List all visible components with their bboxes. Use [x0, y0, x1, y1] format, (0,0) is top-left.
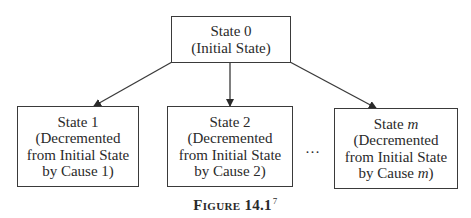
arrow-state0-to-state1 [94, 62, 172, 106]
state-0-title: State 0 [172, 23, 290, 40]
state-m-line3: by Cause m) [335, 165, 457, 182]
state-0-box: State 0 (Initial State) [171, 16, 291, 63]
state-2-line1: (Decremented [168, 130, 292, 147]
state-1-line2: from Initial State [18, 147, 138, 164]
state-0-subtitle: (Initial State) [172, 40, 290, 57]
state-1-title: State 1 [18, 114, 138, 131]
arrow-state0-to-statem [290, 62, 376, 108]
state-1-box: State 1 (Decremented from Initial State … [17, 106, 139, 187]
state-m-title-prefix: State [374, 116, 408, 132]
ellipsis: … [305, 140, 320, 157]
state-1-line1: (Decremented [18, 130, 138, 147]
state-m-line3-prefix: by Cause [358, 165, 417, 181]
state-m-line3-suffix: ) [429, 165, 434, 181]
state-2-title: State 2 [168, 114, 292, 131]
state-m-box: State m (Decremented from Initial State … [334, 108, 458, 189]
state-m-line1: (Decremented [335, 132, 457, 149]
state-m-title-var: m [407, 116, 418, 132]
state-2-line2: from Initial State [168, 147, 292, 164]
state-m-title: State m [335, 116, 457, 133]
state-2-line3: by Cause 2) [168, 163, 292, 180]
caption-label: Figure 14.1 [193, 197, 272, 213]
caption-footnote: 7 [273, 196, 278, 206]
state-m-line2: from Initial State [335, 149, 457, 166]
state-1-line3: by Cause 1) [18, 163, 138, 180]
state-m-line3-var: m [418, 165, 429, 181]
state-2-box: State 2 (Decremented from Initial State … [167, 106, 293, 187]
figure-caption: Figure 14.17 [0, 196, 471, 214]
